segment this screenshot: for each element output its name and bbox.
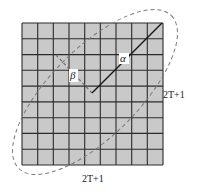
bottom-side-label: 2T+1 (82, 173, 104, 184)
alpha-label: α (120, 52, 126, 64)
lattice-diagram: α β 2T+1 2T+1 (0, 0, 200, 195)
beta-label: β (69, 69, 76, 81)
grid-background (22, 23, 163, 165)
right-side-label: 2T+1 (163, 89, 185, 100)
